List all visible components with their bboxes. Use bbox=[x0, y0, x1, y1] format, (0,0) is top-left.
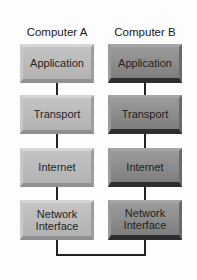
computer-b-title: Computer B bbox=[100, 26, 190, 38]
computer-a-internet-layer: Internet bbox=[20, 148, 94, 187]
connector-b-internet-network bbox=[144, 187, 146, 200]
computer-a-application-layer: Application bbox=[20, 44, 94, 83]
connector-b-transport-internet bbox=[144, 134, 146, 148]
computer-b-network-interface-layer: Network Interface bbox=[108, 200, 182, 240]
connector-a-internet-network bbox=[56, 187, 58, 200]
computer-b-application-layer: Application bbox=[108, 44, 182, 83]
computer-a-transport-layer: Transport bbox=[20, 95, 94, 134]
connector-a-transport-internet bbox=[56, 134, 58, 148]
computer-a-title: Computer A bbox=[12, 26, 102, 38]
computer-b-internet-layer: Internet bbox=[108, 148, 182, 187]
computer-a-network-interface-layer: Network Interface bbox=[20, 200, 94, 240]
connector-a-app-transport bbox=[56, 83, 58, 95]
physical-link bbox=[56, 254, 146, 256]
connector-b-app-transport bbox=[144, 83, 146, 95]
computer-b-transport-layer: Transport bbox=[108, 95, 182, 134]
